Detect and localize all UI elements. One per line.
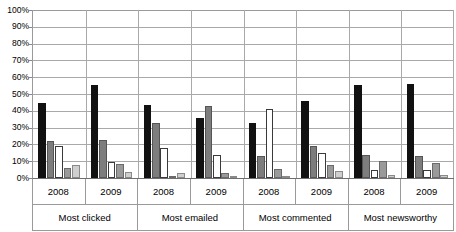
- x-axis-group-label: Most newsworthy: [348, 204, 453, 230]
- x-axis-year-label: 2009: [295, 179, 348, 204]
- bar: [99, 140, 107, 178]
- bar: [108, 162, 116, 178]
- bar: [125, 172, 133, 178]
- x-axis-group-label: Most emailed: [137, 204, 242, 230]
- plot-area: [32, 10, 454, 179]
- bar: [177, 173, 185, 178]
- bar: [144, 105, 152, 178]
- bar: [38, 103, 46, 178]
- bar: [388, 175, 396, 178]
- bar: [55, 146, 63, 178]
- y-axis-tick-label: 10%: [0, 157, 29, 166]
- category-cell-divider: [243, 204, 244, 230]
- bar: [257, 156, 265, 178]
- year-cell-divider: [85, 179, 86, 204]
- bar-chart: 100%90%80%70%60%50%40%30%20%10%0% 200820…: [0, 0, 456, 232]
- bar: [213, 155, 221, 178]
- bar: [169, 176, 177, 178]
- bar: [160, 148, 168, 178]
- bar: [64, 168, 72, 178]
- bar: [379, 161, 387, 178]
- bar: [249, 123, 257, 178]
- year-cell-divider: [190, 179, 191, 204]
- bar: [47, 141, 55, 178]
- y-axis-tick-label: 30%: [0, 123, 29, 132]
- bar: [310, 146, 318, 178]
- bars-layer: [33, 10, 454, 178]
- bar: [301, 101, 309, 178]
- category-cell-divider: [137, 204, 138, 230]
- y-axis: 100%90%80%70%60%50%40%30%20%10%0%: [0, 0, 31, 185]
- y-axis-tick-label: 100%: [0, 6, 29, 15]
- x-axis: 20082009200820092008200920082009 Most cl…: [32, 179, 454, 232]
- bar: [335, 171, 343, 178]
- year-cell-divider: [295, 179, 296, 204]
- bar: [415, 156, 423, 178]
- y-axis-tick-label: 0%: [0, 174, 29, 183]
- x-axis-year-label: 2008: [243, 179, 296, 204]
- y-axis-tick-label: 70%: [0, 56, 29, 65]
- x-axis-year-label: 2008: [137, 179, 190, 204]
- x-axis-year-label: 2009: [400, 179, 453, 204]
- category-cell-divider: [348, 204, 349, 230]
- x-axis-year-label: 2009: [190, 179, 243, 204]
- bar: [205, 106, 213, 178]
- x-axis-year-label: 2008: [348, 179, 401, 204]
- y-axis-tick-label: 20%: [0, 140, 29, 149]
- year-cell-divider: [137, 179, 138, 204]
- x-axis-year-label: 2008: [32, 179, 85, 204]
- bar: [432, 163, 440, 178]
- year-cell-divider: [400, 179, 401, 204]
- bar: [362, 155, 370, 178]
- bar: [354, 85, 362, 178]
- bar: [318, 153, 326, 178]
- bar: [327, 165, 335, 178]
- year-label-row: 20082009200820092008200920082009: [32, 179, 454, 205]
- bar: [440, 175, 448, 178]
- bar: [266, 109, 274, 178]
- year-cell-divider: [243, 179, 244, 204]
- year-cell-divider: [348, 179, 349, 204]
- category-label-row: Most clickedMost emailedMost commentedMo…: [32, 204, 454, 231]
- bar: [282, 176, 290, 178]
- y-axis-tick-label: 40%: [0, 106, 29, 115]
- bar: [221, 173, 229, 178]
- x-axis-group-label: Most clicked: [32, 204, 137, 230]
- bar: [91, 85, 99, 178]
- plot-right-edge: [453, 10, 454, 178]
- x-axis-group-label: Most commented: [243, 204, 348, 230]
- y-axis-tick-label: 90%: [0, 22, 29, 31]
- y-axis-tick-label: 50%: [0, 90, 29, 99]
- bar: [274, 169, 282, 178]
- bar: [407, 84, 415, 178]
- bar: [196, 118, 204, 178]
- bar: [116, 164, 124, 178]
- bar: [423, 170, 431, 178]
- bar: [371, 170, 379, 178]
- x-axis-year-label: 2009: [85, 179, 138, 204]
- bar: [152, 123, 160, 178]
- y-axis-tick-label: 60%: [0, 73, 29, 82]
- bar: [230, 176, 238, 178]
- bar: [72, 165, 80, 178]
- y-axis-tick-label: 80%: [0, 39, 29, 48]
